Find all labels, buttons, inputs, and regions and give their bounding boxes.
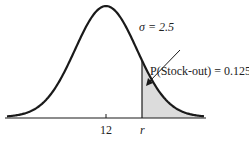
normal-curve [7,6,204,116]
mean-label: 12 [100,123,112,138]
normal-distribution-diagram: σ = 2.5 P(Stock-out) = 0.125 12 r [0,0,249,142]
reorder-point-label: r [140,123,145,138]
stockout-annotation: P(Stock-out) = 0.125 [150,64,249,79]
sigma-label: σ = 2.5 [139,20,174,35]
